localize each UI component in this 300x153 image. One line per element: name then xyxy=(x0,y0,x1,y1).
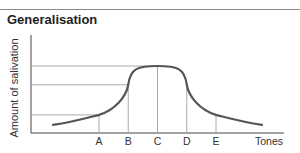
tick-label-a: A xyxy=(95,135,102,147)
y-axis-label: Amount of salivation xyxy=(8,38,20,137)
tick-label-b: B xyxy=(125,135,132,147)
tick-label-c: C xyxy=(154,135,162,147)
tick-label-e: E xyxy=(212,135,219,147)
generalisation-diagram: Amount of salivation ABCDE Tones xyxy=(0,0,300,153)
x-axis-label: Tones xyxy=(255,135,283,147)
tick-label-d: D xyxy=(183,135,191,147)
